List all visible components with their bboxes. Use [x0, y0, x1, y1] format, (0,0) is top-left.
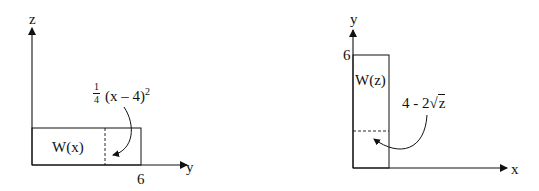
region-label: W(x) [52, 140, 84, 155]
tick-label-6: 6 [137, 172, 145, 187]
x-axis-label: x [511, 162, 519, 177]
fraction-numerator: 1 [94, 82, 99, 92]
diagram-canvas [0, 0, 539, 191]
z-axis-label: z [29, 12, 36, 27]
tick-label-6: 6 [343, 48, 351, 63]
expression-body: (x – 4)2 [105, 87, 150, 104]
expression-exponent: 2 [145, 86, 150, 97]
fraction: 1 4 [93, 82, 100, 105]
boundary-expression: 4 - 2√z [402, 96, 445, 111]
region-w-x [32, 128, 141, 165]
expression-base: (x – 4) [105, 88, 145, 104]
curved-pointer-arrow [113, 107, 131, 155]
fraction-denominator: 4 [94, 95, 99, 105]
radicand: z [438, 94, 446, 111]
expression-prefix: 4 - 2 [402, 95, 430, 111]
y-axis-label: y [186, 160, 194, 175]
curved-pointer-arrow [374, 115, 427, 149]
radical-symbol: √ [430, 95, 438, 111]
y-axis-label: y [350, 12, 358, 27]
region-label: W(z) [355, 73, 386, 88]
